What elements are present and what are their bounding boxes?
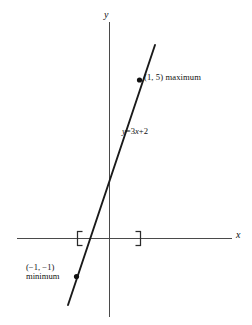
minimum-point-word: minimum xyxy=(26,272,59,281)
maximum-point-label: (1, 5) maximum xyxy=(144,73,201,82)
maximum-point-marker xyxy=(137,77,142,82)
function-line xyxy=(68,45,155,305)
equation-operator-coefficient: =3 xyxy=(126,126,135,136)
equation-label: y=3x+2 xyxy=(122,127,148,136)
minimum-point-marker xyxy=(74,274,79,279)
x-axis-label: x xyxy=(236,230,240,241)
minimum-point-label: (−1, −1)minimum xyxy=(26,263,59,282)
equation-constant-term: +2 xyxy=(139,126,148,136)
graph-figure: y x (1, 5) maximum y=3x+2 (−1, −1)minimu… xyxy=(0,0,252,325)
y-axis-label: y xyxy=(104,10,108,21)
